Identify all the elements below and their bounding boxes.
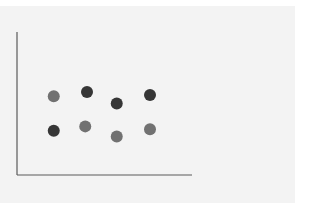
data-point-medium — [111, 130, 123, 142]
data-point-dark — [144, 89, 156, 101]
data-point-medium — [79, 120, 91, 132]
data-point-medium — [144, 123, 156, 135]
data-point-dark — [111, 98, 123, 110]
data-points — [48, 86, 156, 142]
data-point-dark — [48, 125, 60, 137]
scatter-chart — [0, 0, 310, 207]
data-point-dark — [81, 86, 93, 98]
data-point-medium — [48, 90, 60, 102]
